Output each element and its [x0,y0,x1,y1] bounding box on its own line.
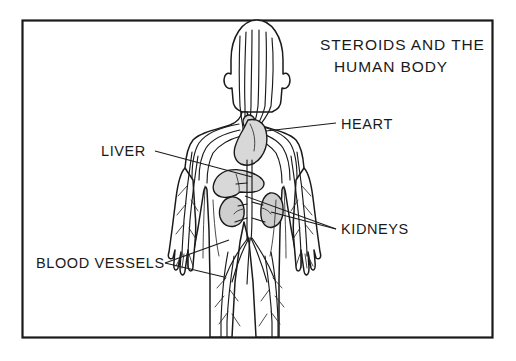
label-liver: LIVER [101,143,146,159]
steroids-human-body-diagram: STEROIDS AND THE HUMAN BODY HEART LIVER … [0,0,516,361]
diagram-title-line-2: HUMAN BODY [334,58,448,75]
label-kidneys: KIDNEYS [341,221,409,237]
kidney-left-organ [219,197,244,227]
diagram-page: STEROIDS AND THE HUMAN BODY HEART LIVER … [0,0,516,361]
label-heart: HEART [341,116,393,132]
diagram-title-line-1: STEROIDS AND THE [320,36,485,53]
label-blood-vessels: BLOOD VESSELS [36,255,165,271]
